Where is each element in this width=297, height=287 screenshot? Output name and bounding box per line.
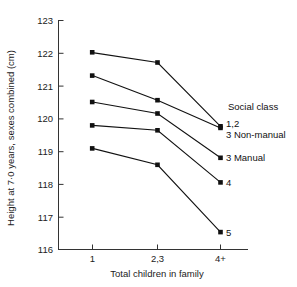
series-3-manual-point-2: [155, 111, 160, 116]
chart-canvas: 123 122 121 120 119 118 117 116 1 2,3 4+…: [0, 0, 297, 287]
series-3-non-manual-point-1: [90, 73, 95, 78]
line-chart: 123 122 121 120 119 118 117 116 1 2,3 4+…: [0, 0, 297, 287]
series-3-manual-point-1: [90, 100, 95, 105]
series-4-point-1: [90, 123, 95, 128]
series-5-point-2: [155, 163, 160, 168]
series-1-2: [90, 50, 223, 129]
x-tick-labels: 1 2,3 4+: [90, 253, 227, 264]
series-3-non-manual: [90, 73, 223, 130]
legend-title: Social class: [228, 101, 278, 112]
axes: [59, 20, 249, 250]
series-5-point-3: [218, 230, 223, 235]
series-3-manual-point-3: [218, 156, 223, 161]
y-tick-label-116: 116: [38, 244, 53, 255]
series-3-non-manual-point-3: [218, 126, 223, 131]
y-tick-labels: 123 122 121 120 119 118 117 116: [37, 15, 53, 255]
y-tick-label-120: 120: [37, 113, 53, 124]
series-label-5: 5: [226, 227, 231, 238]
series-5-line: [93, 148, 221, 232]
series-4-line: [93, 125, 221, 182]
series-5-point-1: [90, 146, 95, 151]
y-tick-label-119: 119: [38, 146, 53, 157]
series-label-3-manual: 3 Manual: [226, 152, 265, 163]
y-tick-marks: [59, 21, 64, 250]
y-tick-label-117: 117: [38, 212, 53, 223]
x-tick-label-4plus: 4+: [215, 253, 226, 264]
series-4: [90, 123, 223, 185]
x-tick-marks: [93, 245, 221, 250]
series-4-point-3: [218, 180, 223, 185]
x-axis-title: Total children in family: [110, 268, 204, 279]
series-5: [90, 146, 223, 234]
y-tick-label-121: 121: [37, 81, 53, 92]
series-label-1-2: 1,2: [226, 118, 239, 129]
y-tick-label-122: 122: [37, 48, 53, 59]
series-4-point-2: [155, 128, 160, 133]
y-axis-title: Height at 7·0 years, sexes combined (cm): [5, 50, 16, 226]
series-1-2-point-1: [90, 50, 95, 55]
series-label-3-non-manual: 3 Non-manual: [226, 129, 286, 140]
x-tick-label-1: 1: [90, 253, 95, 264]
series-1-2-point-2: [155, 60, 160, 65]
x-tick-label-2-3: 2,3: [151, 253, 164, 264]
y-tick-label-123: 123: [37, 15, 53, 26]
y-tick-label-118: 118: [38, 179, 53, 190]
series-label-4: 4: [226, 177, 231, 188]
series-3-non-manual-point-2: [155, 98, 160, 103]
